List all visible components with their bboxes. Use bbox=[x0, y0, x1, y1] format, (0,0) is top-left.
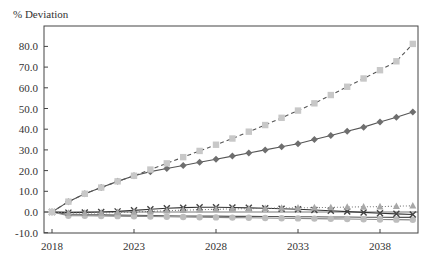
square-marker bbox=[278, 115, 284, 121]
circle-marker bbox=[295, 215, 301, 221]
x-axis: 20182023202820332038 bbox=[41, 229, 392, 252]
square-marker bbox=[213, 142, 219, 148]
y-tick-label: 80.0 bbox=[19, 40, 39, 52]
circle-marker bbox=[344, 216, 350, 222]
diamond-marker bbox=[295, 140, 302, 147]
square-marker bbox=[147, 166, 153, 172]
square-marker bbox=[164, 160, 170, 166]
square-marker bbox=[98, 184, 104, 190]
series-1 bbox=[49, 109, 417, 216]
square-marker bbox=[131, 173, 137, 179]
circle-marker bbox=[262, 215, 268, 221]
diamond-marker bbox=[377, 118, 384, 125]
square-marker bbox=[196, 148, 202, 154]
diamond-marker bbox=[393, 114, 400, 121]
square-marker bbox=[262, 122, 268, 128]
circle-marker bbox=[196, 214, 202, 220]
diamond-marker bbox=[311, 136, 318, 143]
diamond-marker bbox=[262, 146, 269, 153]
x-tick-label: 2028 bbox=[205, 240, 228, 252]
circle-marker bbox=[164, 214, 170, 220]
square-marker bbox=[82, 191, 88, 197]
circle-marker bbox=[360, 216, 366, 222]
circle-marker bbox=[278, 215, 284, 221]
x-tick-label: 2038 bbox=[369, 240, 392, 252]
x-tick-label: 2033 bbox=[287, 240, 310, 252]
y-axis: -10.00.010.020.030.040.050.060.070.080.0 bbox=[15, 40, 48, 238]
circle-marker bbox=[147, 213, 153, 219]
diamond-marker bbox=[196, 159, 203, 166]
square-marker bbox=[360, 75, 366, 81]
square-marker bbox=[180, 154, 186, 160]
circle-marker bbox=[311, 215, 317, 221]
diamond-marker bbox=[278, 143, 285, 150]
series-layer bbox=[49, 41, 417, 223]
x-tick-label: 2018 bbox=[41, 240, 64, 252]
circle-marker bbox=[246, 215, 252, 221]
diamond-marker bbox=[409, 109, 416, 116]
diamond-marker bbox=[360, 124, 367, 131]
y-tick-label: 70.0 bbox=[19, 61, 39, 73]
square-marker bbox=[328, 92, 334, 98]
circle-marker bbox=[180, 214, 186, 220]
square-marker bbox=[229, 135, 235, 141]
triangle-marker bbox=[229, 205, 236, 212]
plot-frame bbox=[44, 26, 418, 233]
diamond-marker bbox=[213, 156, 220, 163]
square-marker bbox=[49, 209, 55, 215]
square-marker bbox=[114, 178, 120, 184]
y-tick-label: 20.0 bbox=[19, 165, 39, 177]
diamond-marker bbox=[180, 162, 187, 169]
circle-marker bbox=[229, 214, 235, 220]
square-marker bbox=[65, 198, 71, 204]
square-marker bbox=[311, 100, 317, 106]
circle-marker bbox=[377, 216, 383, 222]
diamond-marker bbox=[229, 153, 236, 160]
circle-marker bbox=[213, 214, 219, 220]
y-tick-label: 30.0 bbox=[19, 144, 39, 156]
diamond-marker bbox=[344, 128, 351, 135]
y-tick-label: 40.0 bbox=[19, 123, 39, 135]
y-tick-label: 60.0 bbox=[19, 82, 39, 94]
circle-marker bbox=[393, 216, 399, 222]
square-marker bbox=[377, 67, 383, 73]
square-marker bbox=[393, 58, 399, 64]
circle-marker bbox=[328, 216, 334, 222]
y-tick-label: 50.0 bbox=[19, 103, 39, 115]
chart-plot-area: -10.00.010.020.030.040.050.060.070.080.0… bbox=[0, 0, 429, 265]
square-marker bbox=[295, 107, 301, 113]
square-marker bbox=[410, 41, 416, 47]
line-chart: % Deviation -10.00.010.020.030.040.050.0… bbox=[0, 0, 429, 265]
diamond-marker bbox=[327, 132, 334, 139]
y-tick-label: -10.0 bbox=[15, 227, 38, 239]
square-marker bbox=[344, 84, 350, 90]
y-tick-label: 0.0 bbox=[24, 206, 38, 218]
y-tick-label: 10.0 bbox=[19, 185, 39, 197]
triangle-marker bbox=[393, 202, 400, 209]
x-tick-label: 2023 bbox=[123, 240, 146, 252]
triangle-marker bbox=[409, 202, 416, 209]
diamond-marker bbox=[245, 150, 252, 157]
square-marker bbox=[246, 128, 252, 134]
